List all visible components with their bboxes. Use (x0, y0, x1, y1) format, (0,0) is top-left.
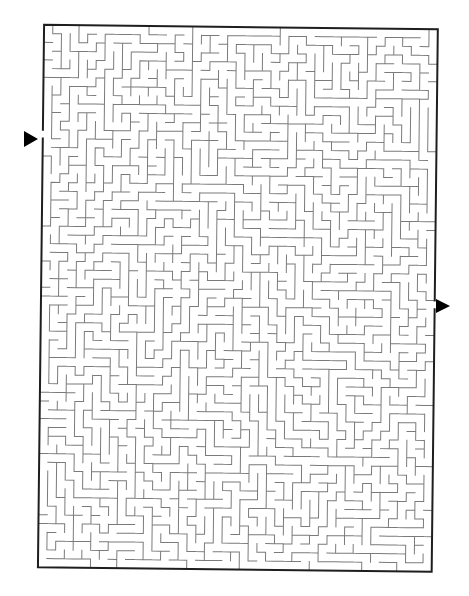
entry-arrow-icon (24, 131, 38, 147)
maze-inner-walls (38, 25, 438, 572)
maze-canvas (0, 0, 469, 596)
maze-grid (38, 25, 438, 572)
exit-arrow-icon (436, 299, 450, 313)
